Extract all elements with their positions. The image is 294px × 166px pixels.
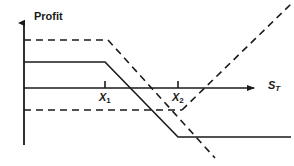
strike-label-x2: X2 <box>172 92 184 105</box>
x-axis-label: ST <box>268 80 280 93</box>
x-axis-label-subscript: T <box>275 84 280 93</box>
curve-solid-payoff <box>24 62 291 137</box>
strike-label-x1-subscript: 1 <box>106 96 110 105</box>
strike-label-x2-subscript: 2 <box>179 96 183 105</box>
curve-dashed-rising <box>182 4 291 110</box>
diagram-canvas <box>0 0 294 166</box>
payoff-diagram: Profit ST X1 X2 <box>0 0 294 166</box>
curve-dashed-payoff <box>24 40 215 158</box>
y-axis-label: Profit <box>34 11 63 22</box>
strike-label-x1: X1 <box>99 92 111 105</box>
